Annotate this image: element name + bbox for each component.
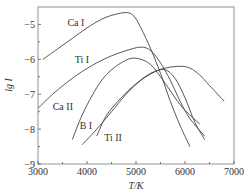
- y-tick-label: −9: [24, 159, 35, 170]
- series-labels: Ca ITi ICa IIB ITi II: [53, 17, 122, 143]
- series-line-ti-i: [38, 47, 205, 136]
- series-line-ca-i: [43, 13, 190, 147]
- x-tick-label: 4000: [77, 166, 97, 177]
- series-label-ti-i: Ti I: [75, 54, 89, 65]
- x-tick-label: 7000: [224, 166, 244, 177]
- line-chart: Ca ITi ICa IIB ITi II 300040005000600070…: [0, 0, 252, 195]
- y-tick-label: −6: [24, 54, 35, 65]
- axis-ticks: [38, 24, 234, 164]
- x-tick-label: 6000: [175, 166, 195, 177]
- series-label-b-i: B I: [80, 120, 93, 131]
- y-tick-labels: −5−6−7−8−9: [24, 19, 35, 170]
- y-tick-label: −8: [24, 124, 35, 135]
- series-line-b-i: [82, 69, 205, 144]
- x-axis-label: T/K: [128, 180, 144, 191]
- plot-frame: [38, 7, 234, 164]
- series-curves: [38, 13, 224, 147]
- y-tick-label: −5: [24, 19, 35, 30]
- x-tick-labels: 30004000500060007000: [28, 166, 244, 177]
- series-label-ti-ii: Ti II: [104, 132, 122, 143]
- y-tick-label: −7: [24, 89, 35, 100]
- x-tick-label: 5000: [126, 166, 146, 177]
- series-label-ca-i: Ca I: [67, 17, 84, 28]
- series-label-ca-ii: Ca II: [53, 101, 73, 112]
- y-axis-label: lg I: [3, 78, 14, 92]
